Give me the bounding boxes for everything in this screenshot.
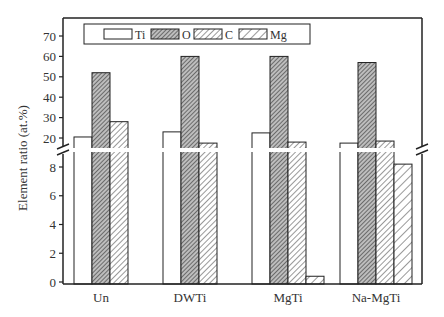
y-tick-label: 20 [43, 131, 56, 146]
x-axis-labels: UnDWTiMgTiNa-MgTi [93, 290, 401, 305]
bar-c [110, 122, 128, 284]
legend-label: O [182, 28, 191, 42]
y-tick-label: 2 [50, 246, 57, 261]
y-tick-label: 60 [43, 49, 56, 64]
x-label: MgTi [273, 290, 303, 305]
legend-swatch-mg [239, 29, 267, 39]
y-axis-title: Element ratio (at.%) [15, 105, 30, 211]
legend-label: C [225, 28, 233, 42]
y-axis-ticks: 20304050607002468 [43, 29, 63, 290]
legend-label: Ti [135, 28, 146, 42]
bar-chart: 20304050607002468 UnDWTiMgTiNa-MgTi Elem… [0, 0, 444, 317]
legend-swatch-c [194, 29, 222, 39]
bar-c [376, 141, 394, 284]
bars-group [74, 56, 412, 284]
legend: TiOCMg [84, 24, 310, 44]
bar-group-un [74, 73, 128, 284]
bar-ti [163, 132, 181, 284]
axis-break-gap [60, 148, 426, 152]
bar-o [181, 56, 199, 284]
bar-ti [74, 137, 92, 284]
bar-ti [340, 143, 358, 284]
bar-group-mgti [252, 56, 324, 284]
legend-swatch-ti [104, 29, 132, 39]
bar-group-dwti [163, 56, 217, 284]
x-label: DWTi [174, 290, 207, 305]
bar-o [270, 56, 288, 284]
y-tick-label: 30 [43, 110, 56, 125]
bar-mg [306, 276, 324, 284]
bar-group-na-mgti [340, 63, 412, 284]
y-tick-label: 0 [50, 275, 57, 290]
bar-mg [394, 164, 412, 284]
bar-o [92, 73, 110, 284]
y-tick-label: 50 [43, 69, 56, 84]
bar-c [199, 143, 217, 284]
bar-ti [252, 133, 270, 284]
legend-swatch-o [151, 29, 179, 39]
x-label: Un [93, 290, 109, 305]
y-tick-label: 6 [50, 188, 57, 203]
bar-o [358, 63, 376, 284]
legend-label: Mg [270, 28, 287, 42]
y-tick-label: 8 [50, 160, 57, 175]
x-label: Na-MgTi [352, 290, 401, 305]
bar-c [288, 142, 306, 284]
y-tick-label: 40 [43, 90, 56, 105]
y-tick-label: 70 [43, 29, 56, 44]
y-tick-label: 4 [50, 217, 57, 232]
